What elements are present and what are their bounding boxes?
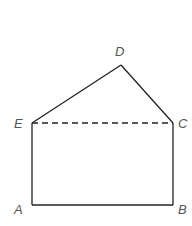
- label-d: D: [115, 44, 124, 59]
- label-c: C: [178, 116, 188, 131]
- label-a: A: [13, 202, 23, 217]
- pentagon-diagram: D E C A B: [0, 0, 192, 226]
- label-b: B: [178, 202, 187, 217]
- label-e: E: [14, 116, 23, 131]
- segment-cd: [121, 65, 173, 123]
- segment-de: [32, 65, 121, 123]
